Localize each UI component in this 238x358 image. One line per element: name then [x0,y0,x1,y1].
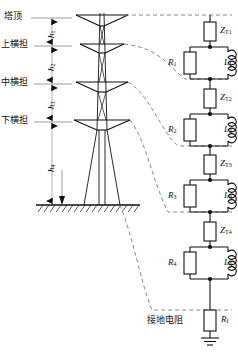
tower-ground-lead [59,170,65,205]
l1-sub: 1 [229,61,232,67]
label-tower-top: 塔顶 [4,12,22,21]
diagram-canvas: 塔顶 上横担 中横担 下横担 h1 h2 h3 h4 ZT1 R1 L1 ZT2… [0,0,238,358]
r2-sub: 2 [174,128,177,134]
label-h4: h4 [46,165,56,173]
label-rf: Rf [221,315,229,324]
label-zt1: ZT1 [220,26,232,35]
tower-crossarm-upper [80,44,124,53]
label-upper-crossarm: 上横担 [1,40,28,49]
tower-crossarm-middle [76,82,128,92]
zt1-box [204,22,216,41]
r1-sub: 1 [174,61,177,67]
tower-crossarm-lower [74,120,130,130]
dash-upper-crossarm [124,44,232,79]
zt3-box [204,155,216,174]
label-zt3: ZT3 [220,159,232,168]
l2-sub: 2 [229,128,232,134]
label-r1: R1 [168,58,177,67]
h4-sub: 4 [50,165,56,168]
label-r2: R2 [168,125,177,134]
earth-ground-symbol [201,338,219,345]
r3-sub: 3 [174,194,177,200]
tower-crossarm-top [76,15,128,26]
zt4-box [204,222,216,241]
label-footing-resistance-cn: 接地电阻 [147,316,183,325]
rf-sub: f [227,318,229,324]
diagram-svg [0,0,238,358]
l3-sub: 3 [229,194,232,200]
r3-box [184,185,196,207]
r2-box [184,119,196,141]
zt2-box [204,89,216,108]
label-lower-crossarm: 下横担 [1,116,28,125]
label-r4: R4 [168,258,177,267]
l4-sub: 4 [229,261,232,267]
zt2-sub: T2 [225,96,232,102]
ground-line [36,205,140,212]
label-l2: L2 [224,125,232,134]
label-h1: h1 [46,31,56,39]
label-r3: R3 [168,191,177,200]
r4-sub: 4 [174,261,177,267]
label-middle-crossarm: 中横担 [1,78,28,87]
h1-base: h [46,34,56,39]
label-h2: h2 [46,64,56,72]
zt1-sub: T1 [225,29,232,35]
label-zt4: ZT4 [220,226,232,235]
r4-box [184,252,196,274]
zt4-sub: T4 [225,229,232,235]
h3-sub: 3 [50,102,56,105]
zt3-sub: T3 [225,162,232,168]
ground-hatching [38,205,139,212]
h2-base: h [46,67,56,72]
label-zt2: ZT2 [220,93,232,102]
rf-box [204,310,216,331]
label-l4: L4 [224,258,232,267]
label-l3: L3 [224,191,232,200]
h3-base: h [46,105,56,110]
dash-lower-crossarm [130,120,232,212]
transmission-tower [74,13,130,205]
tower-body [84,13,120,205]
h2-sub: 2 [50,64,56,67]
r1-box [184,52,196,74]
label-l1: L1 [224,58,232,67]
h1-sub: 1 [50,31,56,34]
label-h3: h3 [46,102,56,110]
h4-base: h [46,168,56,173]
